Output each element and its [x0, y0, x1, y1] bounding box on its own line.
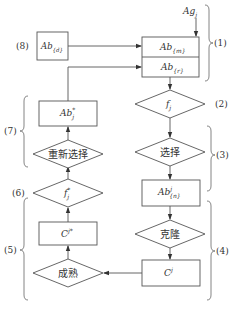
arrow-abstar-to-abr [68, 67, 141, 101]
affinity-fstar-diamond: f*j [33, 179, 103, 207]
clone-diamond: 克隆 [135, 220, 205, 248]
step-label-2: (2) [215, 99, 228, 109]
brace-step-7 [20, 96, 28, 167]
brace-step-5 [20, 198, 28, 300]
antibody-population-box: Ab{m} Ab{r} [142, 37, 199, 77]
brace-step-1 [205, 5, 213, 81]
mature-diamond: 成熟 [33, 259, 103, 287]
memory-antibody-box: Ab{d} [37, 32, 68, 60]
step-label-3: (3) [216, 150, 229, 160]
step-label-7: (7) [4, 126, 17, 136]
svg-text:克隆: 克隆 [160, 228, 180, 240]
immune-algorithm-flowchart: Agj Ab{m} Ab{r} Ab{d} (8) (1) fj (2) 选择 … [0, 0, 248, 309]
step-label-4: (4) [216, 246, 229, 256]
svg-text:选择: 选择 [160, 146, 180, 158]
selected-antibody-box: Abj{n} [142, 180, 200, 206]
step-label-6: (6) [12, 188, 25, 198]
affinity-fj-diamond: fj [135, 90, 205, 118]
antigen-input-label: Agj [182, 6, 197, 19]
svg-text:重新选择: 重新选择 [48, 148, 88, 160]
reselect-diamond: 重新选择 [33, 140, 103, 168]
step-label-1: (1) [214, 38, 227, 48]
best-antibody-box: Ab*j [39, 101, 97, 126]
brace-step-3 [207, 126, 215, 191]
matured-clone-box: Cj* [39, 222, 97, 245]
step-label-5: (5) [4, 245, 17, 255]
step-label-8: (8) [16, 41, 29, 51]
brace-step-4 [207, 201, 215, 300]
svg-text:成熟: 成熟 [58, 267, 78, 279]
select-diamond: 选择 [135, 138, 205, 166]
svg-text:Agj: Agj [182, 6, 197, 19]
clone-set-box: Cj [142, 260, 200, 286]
